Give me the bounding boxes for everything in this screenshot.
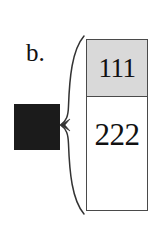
- table-row: 222: [87, 97, 147, 209]
- stacked-cell-table: 111 222: [86, 39, 148, 211]
- cell-value-bottom: 222: [95, 119, 140, 150]
- table-row: 111: [87, 40, 147, 97]
- solid-black-square-icon: [14, 104, 60, 150]
- panel-label: b.: [26, 38, 56, 68]
- figure-panel-b: b. 111 222: [0, 0, 158, 227]
- left-curly-brace-icon: [58, 34, 88, 216]
- cell-value-top: 111: [99, 55, 136, 82]
